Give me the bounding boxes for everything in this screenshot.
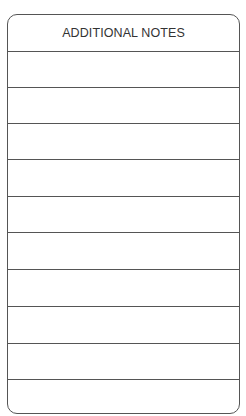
- notes-card: ADDITIONAL NOTES: [7, 14, 240, 414]
- notes-title: ADDITIONAL NOTES: [8, 15, 239, 51]
- note-line[interactable]: [8, 232, 239, 233]
- note-line[interactable]: [8, 269, 239, 270]
- note-line[interactable]: [8, 306, 239, 307]
- note-line[interactable]: [8, 51, 239, 52]
- note-line[interactable]: [8, 343, 239, 344]
- note-line[interactable]: [8, 87, 239, 88]
- note-line[interactable]: [8, 159, 239, 160]
- note-line[interactable]: [8, 123, 239, 124]
- note-line[interactable]: [8, 196, 239, 197]
- note-line[interactable]: [8, 379, 239, 380]
